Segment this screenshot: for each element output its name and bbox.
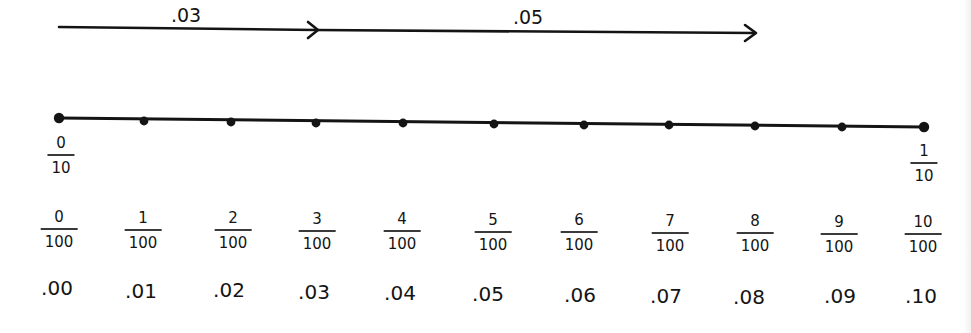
decimal-label: .04 [384, 283, 416, 303]
fraction-start-tenths: 0 10 [47, 136, 74, 176]
decimal-label: .02 [213, 280, 245, 300]
tick-dot-6 [580, 121, 589, 130]
fraction-hundredths: 0100 [41, 210, 78, 250]
page-edge-shadow [963, 0, 971, 333]
fraction-hundredths: 4100 [384, 212, 421, 252]
tick-dot-3 [312, 119, 321, 128]
decimal-label: .05 [472, 284, 504, 304]
fraction-hundredths: 6100 [561, 213, 598, 253]
number-line-diagram: .03 .05 0 10 1 10 0100 1100 2100 3100 41… [0, 0, 971, 333]
arrow-label-2: .05 [513, 8, 543, 27]
tick-dot-0 [54, 113, 64, 123]
fraction-hundredths: 2100 [215, 211, 252, 251]
fraction-hundredths: 9100 [821, 215, 858, 255]
tick-dot-1 [140, 117, 149, 126]
fraction-hundredths: 10100 [905, 215, 942, 255]
denominator: 10 [910, 164, 937, 184]
fraction-hundredths: 7100 [652, 214, 689, 254]
fraction-hundredths: 1100 [125, 211, 162, 251]
arrow-label-1: .03 [171, 6, 201, 25]
tick-dot-7 [665, 121, 674, 130]
tick-dot-9 [838, 123, 847, 132]
fraction-hundredths: 3100 [299, 212, 336, 252]
decimal-label: .01 [125, 281, 157, 301]
numerator: 1 [915, 144, 933, 162]
denominator: 10 [47, 156, 74, 176]
tick-dot-2 [227, 118, 236, 127]
tick-dot-4 [399, 119, 408, 128]
decimal-label: .08 [733, 287, 765, 307]
decimal-label: .07 [650, 286, 682, 306]
number-line [54, 113, 929, 132]
fraction-hundredths: 8100 [737, 214, 774, 254]
tick-dot-10 [919, 122, 929, 132]
decimal-label: .09 [824, 286, 856, 306]
decimal-label: .06 [564, 285, 596, 305]
decimal-label: .03 [298, 282, 330, 302]
fraction-hundredths: 5100 [475, 213, 512, 253]
decimal-label: .00 [41, 278, 73, 298]
numerator: 0 [52, 136, 70, 154]
tick-dot-5 [490, 120, 499, 129]
decimal-label: .10 [905, 286, 937, 306]
fraction-end-tenths: 1 10 [910, 144, 937, 184]
tick-dot-8 [751, 122, 760, 131]
